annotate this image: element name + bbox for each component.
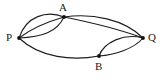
vertex-dot-b bbox=[97, 54, 101, 58]
vertex-dot-a bbox=[62, 15, 66, 19]
vertex-label-p: P bbox=[6, 32, 12, 43]
edge-layer bbox=[19, 14, 143, 58]
vertex-label-q: Q bbox=[148, 32, 156, 43]
vertex-label-b: B bbox=[95, 61, 102, 72]
edge-p-b-1 bbox=[19, 38, 99, 58]
graph-diagram: A P Q B bbox=[0, 0, 163, 80]
vertex-dot-p bbox=[17, 36, 21, 40]
edge-b-q-1 bbox=[99, 38, 143, 56]
edge-b-q-2 bbox=[99, 37, 143, 56]
edge-p-a-3 bbox=[19, 17, 64, 38]
vertex-label-a: A bbox=[59, 2, 67, 13]
graph-canvas bbox=[0, 0, 163, 80]
edge-a-q-2 bbox=[64, 17, 143, 38]
vertex-dot-q bbox=[141, 36, 145, 40]
